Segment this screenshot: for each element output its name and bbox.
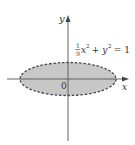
y-axis-arrow-icon xyxy=(66,15,71,22)
equation-label: 1 9 x 2 + y 2 = 1 xyxy=(76,42,131,57)
y-axis-label: y xyxy=(58,13,65,24)
fraction-numerator: 1 xyxy=(76,42,80,49)
equation-rhs: = 1 xyxy=(111,45,130,55)
ellipse-diagram: y x 0 1 9 x 2 + y 2 = 1 xyxy=(0,0,135,145)
x-axis-arrow-icon xyxy=(122,77,129,82)
equation-plus-y: + y xyxy=(89,45,108,55)
origin-label: 0 xyxy=(61,81,67,91)
fraction-denominator: 9 xyxy=(76,50,80,57)
x-axis-label: x xyxy=(122,82,127,92)
